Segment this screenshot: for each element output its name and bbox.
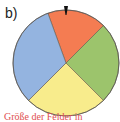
wheel-sectors (13, 10, 119, 116)
spinner-wheel (0, 0, 120, 122)
figure-caption: Größe der Felder in (4, 111, 83, 122)
